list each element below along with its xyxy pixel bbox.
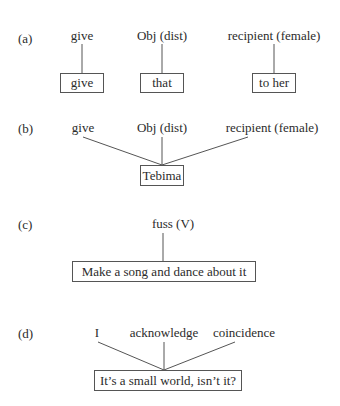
label-give: give — [71, 29, 93, 43]
label-obj-dist: Obj (dist) — [137, 121, 187, 135]
panel-tag-b: (b) — [18, 122, 33, 136]
connector-b-give — [83, 137, 162, 165]
box-make-a-song-and-dance: Make a song and dance about it — [72, 261, 256, 282]
box-small-world: It’s a small world, isn’t it? — [94, 370, 242, 391]
connector-d-i — [98, 342, 164, 370]
panel-tag-d: (d) — [18, 327, 33, 341]
connector-b-recipient — [162, 137, 248, 165]
label-acknowledge: acknowledge — [130, 326, 199, 340]
connector-lines — [0, 0, 340, 406]
box-tebima: Tebima — [140, 165, 184, 186]
connector-d-coincidence — [164, 342, 235, 370]
box-that: that — [140, 73, 184, 93]
box-to-her: to her — [252, 73, 296, 93]
panel-tag-c: (c) — [18, 218, 32, 232]
label-fuss-v: fuss (V) — [152, 217, 194, 231]
label-recipient-female: recipient (female) — [228, 29, 321, 43]
label-coincidence: coincidence — [213, 326, 275, 340]
box-give: give — [60, 73, 104, 93]
panel-tag-a: (a) — [18, 32, 32, 46]
label-i: I — [95, 326, 99, 340]
label-give: give — [72, 121, 94, 135]
label-recipient-female: recipient (female) — [226, 121, 319, 135]
label-obj-dist: Obj (dist) — [137, 29, 187, 43]
